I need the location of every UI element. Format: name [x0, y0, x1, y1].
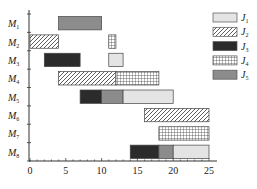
legend-label-j1: J1 [241, 12, 248, 24]
y-label-m5: M5 [7, 92, 19, 104]
task-bar-m4-j4 [116, 72, 159, 85]
x-tick-label-5: 5 [63, 165, 68, 176]
y-label-m1: M1 [7, 18, 19, 30]
task-bar-m1-j5 [59, 17, 102, 30]
x-tick-label-10: 10 [97, 165, 107, 176]
task-bar-m5-j5 [102, 90, 123, 103]
x-tick-label-25: 25 [204, 165, 214, 176]
task-bar-m4-j2 [59, 72, 116, 85]
legend-swatch-j1 [213, 13, 237, 22]
legend-label-j4: J4 [241, 55, 248, 67]
legend-label-j3: J3 [241, 41, 248, 53]
task-bar-m6-j2 [145, 108, 209, 121]
legend-label-j2: J2 [241, 26, 248, 38]
x-tick-label-15: 15 [132, 165, 142, 176]
task-bar-m5-j1 [123, 90, 173, 103]
y-label-m7: M7 [7, 128, 19, 140]
y-label-m2: M2 [7, 37, 19, 49]
chart-canvas: M1M2M3M4M5M6M7M8 0510152025 J1J2J3J4J5 [0, 0, 257, 189]
task-bar-m2-j4 [109, 35, 116, 48]
y-label-m8: M8 [7, 147, 19, 159]
task-bar-m3-j1 [109, 53, 123, 66]
y-label-m4: M4 [7, 73, 19, 85]
legend-swatch-j3 [213, 42, 237, 51]
task-bar-m5-j3 [80, 90, 101, 103]
task-bars [30, 17, 209, 159]
x-axis-labels: 0510152025 [28, 165, 215, 176]
legend: J1J2J3J4J5 [213, 12, 248, 81]
task-bar-m2-j2 [30, 35, 59, 48]
task-bar-m8-j3 [130, 145, 159, 158]
task-bar-m8-j1 [173, 145, 209, 158]
task-bar-m3-j3 [44, 53, 80, 66]
y-label-m3: M3 [7, 55, 19, 67]
x-tick-label-0: 0 [28, 165, 33, 176]
x-tick-label-20: 20 [168, 165, 178, 176]
y-axis-labels: M1M2M3M4M5M6M7M8 [7, 18, 19, 159]
legend-swatch-j4 [213, 56, 237, 65]
gantt-chart: M1M2M3M4M5M6M7M8 0510152025 J1J2J3J4J5 [0, 0, 257, 189]
legend-label-j5: J5 [241, 69, 248, 81]
y-label-m6: M6 [7, 110, 19, 122]
task-bar-m8-j5 [159, 145, 173, 158]
legend-swatch-j2 [213, 27, 237, 36]
legend-swatch-j5 [213, 70, 237, 79]
task-bar-m7-j4 [159, 127, 209, 140]
